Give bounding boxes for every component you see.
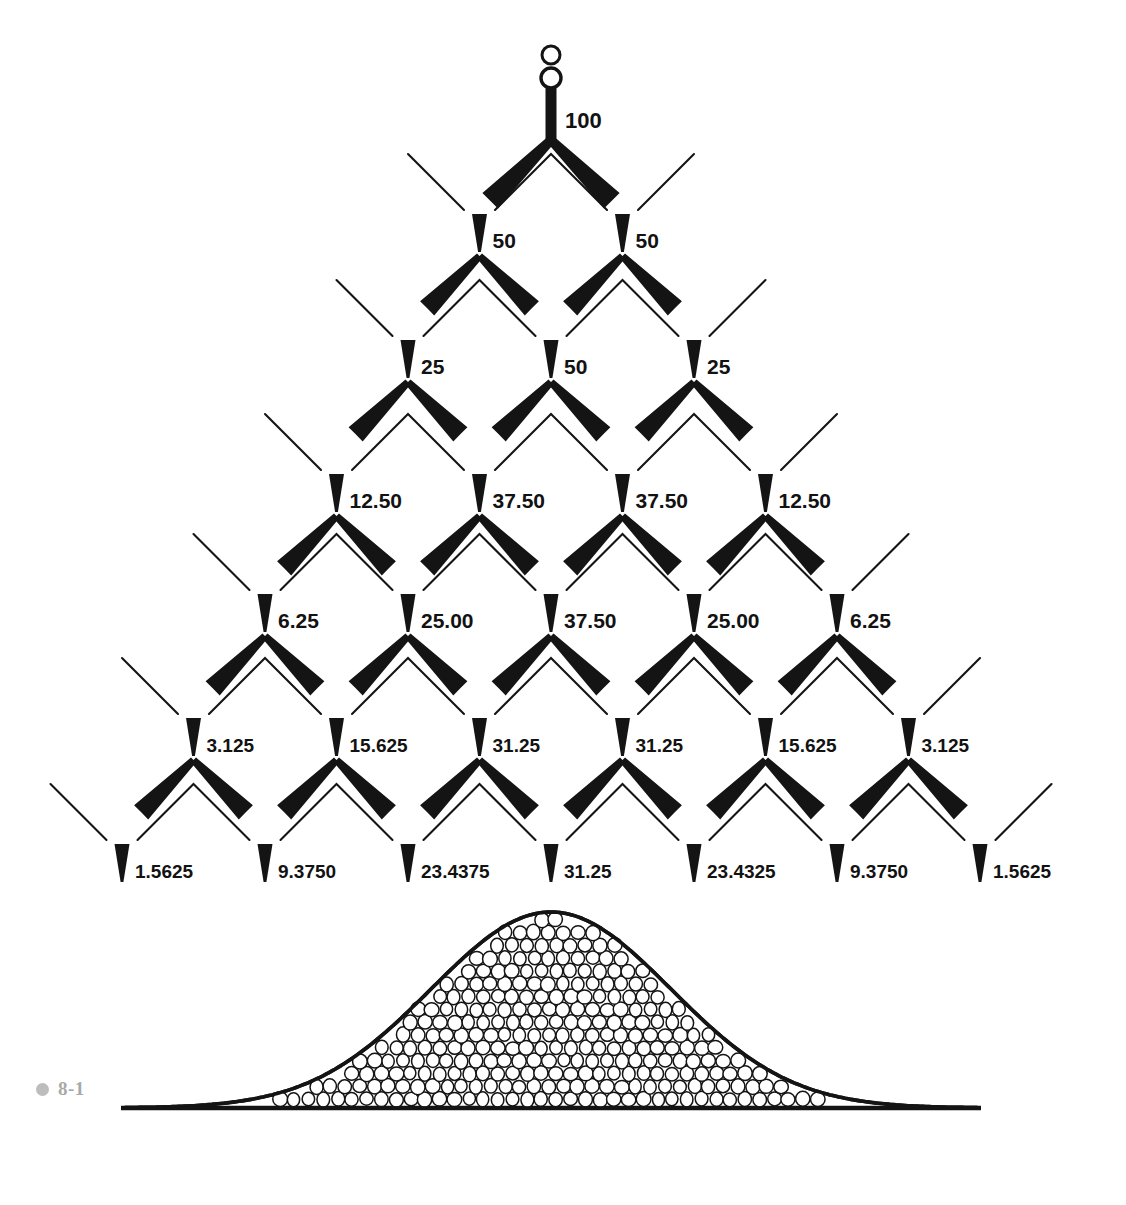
peg-edge-arm xyxy=(996,784,1052,840)
node-chute xyxy=(687,844,702,882)
node-value-label: 15.625 xyxy=(779,735,838,756)
node-value-label: 31.25 xyxy=(636,735,684,756)
flow-arrow xyxy=(563,514,625,576)
flow-arrow xyxy=(277,758,339,820)
flow-arrow xyxy=(477,514,539,576)
node-chute xyxy=(472,474,487,512)
flow-arrow xyxy=(477,758,539,820)
node-chute xyxy=(544,340,559,378)
node-value-label: 1.5625 xyxy=(993,861,1052,882)
node-chute xyxy=(115,844,130,882)
node-chute xyxy=(830,594,845,632)
peg-edge-arm xyxy=(337,280,393,336)
peg-lines-layer xyxy=(51,154,1052,840)
node-chute xyxy=(472,718,487,756)
node-value-label: 25 xyxy=(421,355,445,378)
node-chute xyxy=(687,594,702,632)
flow-arrow xyxy=(420,254,482,316)
node-value-label: 12.50 xyxy=(350,489,403,512)
peg-edge-arm xyxy=(51,784,107,840)
node-value-label: 9.3750 xyxy=(850,861,908,882)
hopper-layer xyxy=(541,46,561,140)
node-chute xyxy=(687,340,702,378)
flow-arrow xyxy=(277,514,339,576)
flow-arrow xyxy=(334,758,396,820)
node-chute xyxy=(258,844,273,882)
node-chute xyxy=(401,340,416,378)
node-value-label: 100 xyxy=(565,108,602,133)
figure-bullet-icon xyxy=(36,1083,49,1096)
node-value-label: 23.4375 xyxy=(421,861,490,882)
flow-arrow xyxy=(548,137,620,209)
node-chute xyxy=(258,594,273,632)
node-value-label: 25.00 xyxy=(707,609,760,632)
node-chute xyxy=(401,844,416,882)
peg-edge-arm xyxy=(408,154,464,210)
pellet-icon xyxy=(541,68,561,88)
node-chute xyxy=(615,214,630,252)
node-chute xyxy=(329,718,344,756)
node-chute xyxy=(901,718,916,756)
node-chute xyxy=(830,844,845,882)
node-value-label: 25.00 xyxy=(421,609,474,632)
node-value-label: 9.3750 xyxy=(278,861,336,882)
node-chute xyxy=(615,718,630,756)
flow-arrow xyxy=(477,254,539,316)
peg-edge-arm xyxy=(781,414,837,470)
node-value-label: 12.50 xyxy=(779,489,832,512)
node-value-label: 50 xyxy=(564,355,587,378)
node-value-label: 31.25 xyxy=(564,861,612,882)
flow-arrow xyxy=(706,514,768,576)
pellet-icon xyxy=(542,46,560,64)
node-chute xyxy=(544,594,559,632)
node-chute xyxy=(973,844,988,882)
peg-edge-arm xyxy=(122,658,178,714)
flow-arrow xyxy=(134,758,196,820)
figure-caption: 8-1 xyxy=(36,1078,85,1100)
flow-arrow xyxy=(563,254,625,316)
peg-edge-arm xyxy=(924,658,980,714)
node-value-label: 6.25 xyxy=(850,609,891,632)
flow-arrow xyxy=(563,758,625,820)
node-chute xyxy=(758,474,773,512)
flow-arrow xyxy=(620,758,682,820)
node-value-label: 23.4325 xyxy=(707,861,776,882)
node-value-label: 15.625 xyxy=(350,735,409,756)
node-value-label: 6.25 xyxy=(278,609,319,632)
flow-arrow xyxy=(191,758,253,820)
flow-arrows-layer xyxy=(134,137,968,820)
node-chute xyxy=(615,474,630,512)
flow-arrow xyxy=(763,758,825,820)
flow-arrow xyxy=(849,758,911,820)
chute-markers-layer xyxy=(115,214,988,882)
flow-arrow xyxy=(406,380,468,442)
node-value-label: 3.125 xyxy=(922,735,970,756)
flow-arrow xyxy=(906,758,968,820)
peg-edge-arm xyxy=(853,534,909,590)
flow-arrow xyxy=(692,380,754,442)
peg-edge-arm xyxy=(194,534,250,590)
feed-tube xyxy=(546,88,557,140)
peg-edge-arm xyxy=(710,280,766,336)
peg-edge-arm xyxy=(638,154,694,210)
distribution-curve-layer xyxy=(121,912,981,1108)
figure-number: 8-1 xyxy=(58,1078,85,1100)
node-chute xyxy=(472,214,487,252)
node-chute xyxy=(758,718,773,756)
node-value-label: 31.25 xyxy=(493,735,541,756)
figure-container: 100505025502512.5037.5037.5012.506.2525.… xyxy=(0,0,1126,1205)
node-value-label: 37.50 xyxy=(636,489,689,512)
flow-arrow xyxy=(763,514,825,576)
flow-arrow xyxy=(620,514,682,576)
flow-arrow xyxy=(420,758,482,820)
flow-arrow xyxy=(706,758,768,820)
flow-arrow xyxy=(334,514,396,576)
flow-arrow xyxy=(492,380,554,442)
node-chute xyxy=(401,594,416,632)
flow-arrow xyxy=(420,514,482,576)
node-value-label: 50 xyxy=(636,229,659,252)
flow-arrow xyxy=(620,254,682,316)
flow-arrow xyxy=(349,380,411,442)
peg-edge-arm xyxy=(265,414,321,470)
node-value-label: 1.5625 xyxy=(135,861,194,882)
